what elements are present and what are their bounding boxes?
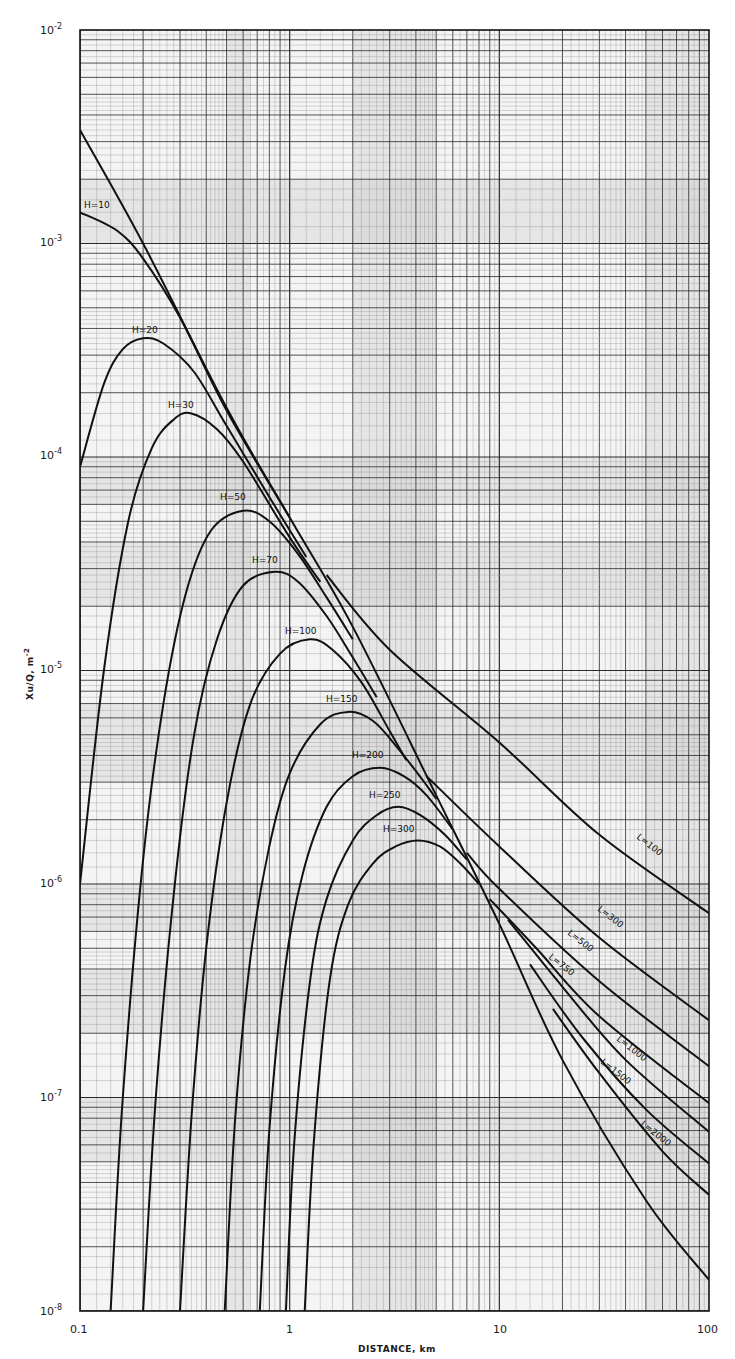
label-h100: H=100 [285,626,317,636]
label-h70: H=70 [252,555,278,565]
x-tick-label: 100 [697,1323,718,1336]
label-h20: H=20 [132,325,158,335]
y-tick-label: 10-2 [40,22,62,37]
label-h30: H=30 [168,400,194,410]
x-axis-ticks: 0.1 1 10 100 [70,1323,718,1336]
y-tick-label: 10-7 [40,1089,62,1104]
label-h150: H=150 [326,694,358,704]
y-tick-label: 10-4 [40,447,62,462]
label-h250: H=250 [369,790,401,800]
y-tick-label: 10-6 [40,875,62,890]
label-h300: H=300 [383,824,415,834]
x-tick-label: 10 [493,1323,507,1336]
label-h10: H=10 [84,200,110,210]
y-tick-label: 10-8 [40,1303,62,1318]
label-h200: H=200 [352,750,384,760]
y-tick-label: 10-5 [40,661,62,676]
x-tick-label: 1 [286,1323,293,1336]
label-h50: H=50 [220,492,246,502]
y-axis-title: Xu/Q, m-2 [23,648,35,701]
chart: 10-2 10-3 10-4 10-5 10-6 10-7 10-8 0.1 1… [0,0,735,1359]
x-axis-title: DISTANCE, km [358,1344,436,1354]
x-tick-label: 0.1 [70,1323,88,1336]
y-axis-ticks: 10-2 10-3 10-4 10-5 10-6 10-7 10-8 [40,22,62,1318]
y-tick-label: 10-3 [40,234,62,249]
